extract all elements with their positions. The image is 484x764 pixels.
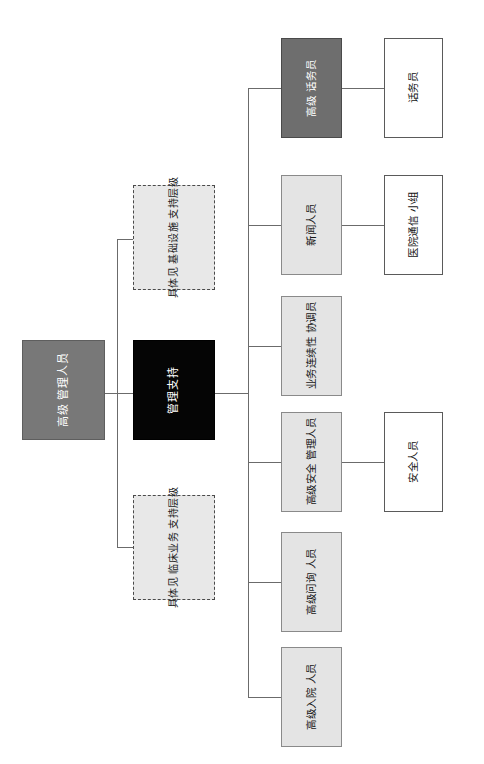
node-senior-operator-label: 高级 话务员 bbox=[306, 59, 317, 117]
node-management-support-label: 管理支持 bbox=[168, 366, 180, 414]
node-operator[interactable]: 话务员 bbox=[384, 38, 443, 138]
connector-trunk-to-branch-5 bbox=[248, 582, 282, 583]
node-reference-clinical[interactable]: 具体见 临床业务 支持层级 bbox=[133, 495, 215, 600]
node-senior-operator-line-1: 高级 bbox=[306, 95, 317, 117]
node-senior-admissions-staff-line-2: 人员 bbox=[306, 664, 317, 685]
connector-root-to-support bbox=[105, 393, 133, 394]
node-senior-security-manager-line-1: 高级安全 bbox=[306, 463, 317, 505]
node-business-continuity-coordinator-label: 业务连续性 协调员 bbox=[306, 302, 317, 390]
node-senior-admissions-staff-line-1: 高级入院 bbox=[306, 688, 317, 730]
node-reference-infrastructure-label: 具体见 基础设施 支持层级 bbox=[169, 177, 180, 299]
node-reference-infrastructure-line-2: 基础设施 bbox=[169, 222, 180, 264]
node-senior-admissions-staff-label: 高级入院 人员 bbox=[306, 664, 317, 731]
connector-spine-to-reference-bottom bbox=[117, 547, 133, 548]
node-management-support[interactable]: 管理支持 bbox=[133, 340, 215, 440]
node-reference-infrastructure[interactable]: 具体见 基础设施 支持层级 bbox=[133, 185, 215, 290]
org-chart-canvas: 高级 管理人员 管理支持 具体见 基础设施 支持层级 具体见 临床业务 支持层级… bbox=[0, 0, 484, 764]
node-reference-infrastructure-line-1: 具体见 bbox=[169, 267, 180, 299]
node-senior-security-manager-label: 高级安全 管理人员 bbox=[306, 418, 317, 506]
node-hospital-communications-team-label: 医院通信 小组 bbox=[408, 192, 419, 259]
node-press-staff[interactable]: 新闻人员 bbox=[281, 175, 342, 275]
connector-trunk-to-branch-4 bbox=[248, 462, 282, 463]
node-senior-enquiry-staff[interactable]: 高级问询 人员 bbox=[281, 532, 342, 632]
connector-trunk-to-branch-6 bbox=[248, 697, 282, 698]
node-senior-security-manager[interactable]: 高级安全 管理人员 bbox=[281, 412, 342, 512]
node-senior-operator[interactable]: 高级 话务员 bbox=[281, 38, 342, 138]
node-reference-clinical-label: 具体见 临床业务 支持层级 bbox=[169, 487, 180, 609]
node-security-staff-label: 安全人员 bbox=[408, 441, 419, 483]
node-business-continuity-coordinator[interactable]: 业务连续性 协调员 bbox=[281, 296, 342, 396]
node-press-staff-line-1: 新闻人员 bbox=[306, 204, 317, 246]
node-senior-management-line-2: 管理人员 bbox=[58, 352, 70, 400]
node-press-staff-label: 新闻人员 bbox=[306, 204, 317, 246]
node-senior-enquiry-staff-line-2: 人员 bbox=[306, 549, 317, 570]
node-senior-security-manager-line-2: 管理人员 bbox=[306, 418, 317, 460]
node-senior-admissions-staff[interactable]: 高级入院 人员 bbox=[281, 647, 342, 747]
node-reference-clinical-line-3: 支持层级 bbox=[169, 487, 180, 529]
node-management-support-line-1: 管理支持 bbox=[168, 366, 180, 414]
connector-branch-4-to-leaf bbox=[342, 462, 384, 463]
node-reference-clinical-line-2: 临床业务 bbox=[169, 532, 180, 574]
node-hospital-communications-team[interactable]: 医院通信 小组 bbox=[384, 175, 443, 275]
node-senior-management-label: 高级 管理人员 bbox=[58, 352, 70, 427]
connector-trunk-to-branch-1 bbox=[248, 88, 282, 89]
connector-reference-spine bbox=[117, 239, 118, 548]
node-business-continuity-coordinator-line-1: 业务连续性 bbox=[306, 337, 317, 390]
node-security-staff[interactable]: 安全人员 bbox=[384, 412, 443, 512]
connector-support-to-trunk bbox=[215, 393, 249, 394]
node-senior-management[interactable]: 高级 管理人员 bbox=[22, 340, 105, 440]
node-reference-infrastructure-line-3: 支持层级 bbox=[169, 177, 180, 219]
node-operator-label: 话务员 bbox=[408, 72, 419, 104]
node-reference-clinical-line-1: 具体见 bbox=[169, 577, 180, 609]
node-security-staff-line-1: 安全人员 bbox=[408, 441, 419, 483]
node-hospital-communications-team-line-1: 医院通信 bbox=[408, 216, 419, 258]
node-senior-enquiry-staff-line-1: 高级问询 bbox=[306, 573, 317, 615]
connector-branch-1-to-leaf bbox=[342, 88, 384, 89]
node-senior-operator-line-2: 话务员 bbox=[306, 59, 317, 92]
node-hospital-communications-team-line-2: 小组 bbox=[408, 192, 419, 213]
connector-main-trunk bbox=[248, 88, 249, 697]
connector-spine-to-reference-top bbox=[117, 239, 133, 240]
connector-trunk-to-branch-2 bbox=[248, 225, 282, 226]
connector-trunk-to-branch-3 bbox=[248, 346, 282, 347]
node-senior-management-line-1: 高级 bbox=[58, 403, 70, 427]
node-senior-enquiry-staff-label: 高级问询 人员 bbox=[306, 549, 317, 616]
node-operator-line-1: 话务员 bbox=[408, 72, 419, 104]
node-business-continuity-coordinator-line-2: 协调员 bbox=[306, 302, 317, 334]
connector-branch-2-to-leaf bbox=[342, 225, 384, 226]
